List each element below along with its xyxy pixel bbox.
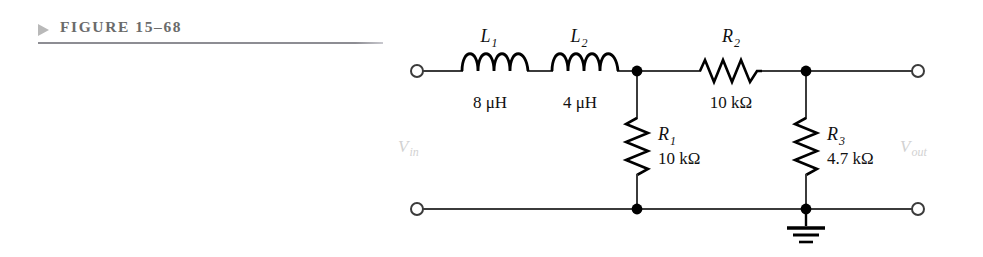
L1-value-label: 8 μH <box>473 93 507 112</box>
circuit-schematic: L1 8 μH L2 4 μH R2 10 kΩ R1 10 kΩ R3 4.7… <box>0 0 983 257</box>
R2-value-label: 10 kΩ <box>710 93 752 112</box>
output-port-label: Vout <box>900 137 927 159</box>
R1-ref-label: R1 <box>657 124 676 148</box>
input-port-label: Vin <box>398 137 419 159</box>
node-a-junction <box>632 66 643 77</box>
component-L1: L1 8 μH <box>462 26 528 112</box>
R3-ref-label: R3 <box>826 124 845 148</box>
component-R2: R2 10 kΩ <box>700 26 762 112</box>
L2-value-label: 4 μH <box>563 93 597 112</box>
bottom-right-junction <box>801 204 812 215</box>
bottom-left-junction <box>632 204 643 215</box>
R2-ref-label: R2 <box>721 26 740 50</box>
input-bottom-terminal[interactable] <box>411 203 423 215</box>
node-b-junction <box>801 66 812 77</box>
inductor-coil-icon <box>552 54 618 71</box>
output-top-terminal[interactable] <box>912 65 924 77</box>
resistor-zigzag-icon <box>795 118 817 175</box>
L2-ref-label: L2 <box>569 26 587 50</box>
L1-ref-label: L1 <box>479 26 497 50</box>
inductor-coil-icon <box>462 54 528 71</box>
resistor-zigzag-icon <box>626 118 648 175</box>
R3-value-label: 4.7 kΩ <box>827 149 874 168</box>
R1-value-label: 10 kΩ <box>658 149 700 168</box>
component-R1: R1 10 kΩ <box>626 71 700 209</box>
component-L2: L2 4 μH <box>552 26 618 112</box>
output-bottom-terminal[interactable] <box>912 203 924 215</box>
resistor-zigzag-icon <box>700 60 762 82</box>
input-top-terminal[interactable] <box>411 65 423 77</box>
component-R3: R3 4.7 kΩ <box>795 71 874 209</box>
